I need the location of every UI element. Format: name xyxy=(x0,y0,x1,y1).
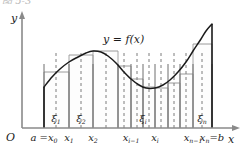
y-axis-arrowhead xyxy=(19,11,25,19)
x-axis-label: x xyxy=(228,134,234,145)
curve-equation-label: y = f(x) xyxy=(103,34,144,45)
sample-label-xii: ξi xyxy=(139,114,147,124)
x-axis-arrowhead xyxy=(232,125,240,131)
x-tick-label-x0: a =x0 xyxy=(30,133,57,143)
y-axis-label: y xyxy=(11,13,17,24)
sample-label-xi1: ξ1 xyxy=(51,114,60,124)
x-tick-label-x2: x2 xyxy=(88,133,98,143)
sample-label-xin: ξn xyxy=(197,114,207,124)
x-tick-label-xi: xi xyxy=(151,133,159,143)
x-tick-label-x1: x1 xyxy=(64,133,74,143)
x-tick-label-xi-1: xi−1 xyxy=(123,133,140,143)
sample-label-xi2: ξ2 xyxy=(76,114,85,124)
x-tick-label-xn: xn=b xyxy=(200,133,224,143)
origin-label: O xyxy=(6,132,15,143)
riemann-sum-figure: 图 5-3 y x O y = f(x) a =x0x1x2xi−1xixn−1… xyxy=(0,0,242,164)
